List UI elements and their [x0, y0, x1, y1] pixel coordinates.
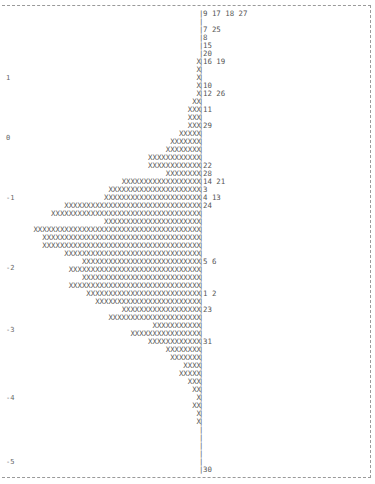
row-ids: 24	[203, 202, 212, 210]
histogram-row: |	[0, 426, 375, 434]
histogram-row: X|	[0, 66, 375, 74]
histogram-row: X|10	[0, 82, 375, 90]
histogram-row: |15	[0, 42, 375, 50]
histogram-row: X|12 26	[0, 90, 375, 98]
histogram-row: |	[0, 458, 375, 466]
histogram-row: |	[0, 434, 375, 442]
histogram-row: X|16 19	[0, 58, 375, 66]
histogram-row: |	[0, 450, 375, 458]
row-ids: 30	[203, 466, 212, 474]
histogram-row: |9 17 18 27	[0, 10, 375, 18]
histogram-row: |20	[0, 50, 375, 58]
row-ids: 16 19	[203, 58, 225, 66]
row-ids: 1 2	[203, 290, 216, 298]
row-ids: 5 6	[203, 258, 216, 266]
row-ids: 11	[203, 106, 212, 114]
histogram-row: XX|	[0, 402, 375, 410]
row-ids: 9 17 18 27	[203, 10, 248, 18]
row-ids: 12 26	[203, 90, 225, 98]
histogram-row: X|	[0, 418, 375, 426]
histogram-row: |	[0, 442, 375, 450]
histogram-row: |8	[0, 34, 375, 42]
histogram-row: |	[0, 18, 375, 26]
row-ids: 29	[203, 122, 212, 130]
row-ids: 23	[203, 306, 212, 314]
histogram-row: XXX|	[0, 378, 375, 386]
histogram-row: XX|	[0, 386, 375, 394]
histogram-row: X|	[0, 410, 375, 418]
histogram-row: |30	[0, 466, 375, 474]
histogram-row: X|	[0, 394, 375, 402]
histogram-row: |7 25	[0, 26, 375, 34]
histogram-row: X|	[0, 74, 375, 82]
row-ids: 31	[203, 338, 212, 346]
